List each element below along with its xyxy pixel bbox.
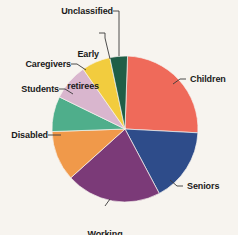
leader-line-unclassified — [113, 11, 119, 56]
pie-label-early-retirees: Early retirees — [20, 28, 99, 112]
pie-slice-children[interactable] — [125, 56, 198, 133]
pie-label-early-retirees-line1: Early — [20, 49, 99, 60]
pie-label-working-poor: Working poor — [70, 208, 140, 235]
pie-label-children: Children — [190, 74, 226, 85]
pie-label-working-poor-line1: Working — [70, 229, 140, 235]
pie-label-seniors: Seniors — [187, 181, 219, 192]
pie-label-disabled: Disabled — [3, 130, 48, 141]
pie-label-students: Students — [5, 84, 59, 95]
pie-label-unclassified: Unclassified — [20, 6, 113, 17]
leader-line-early-retirees — [99, 33, 110, 59]
pie-chart: Unclassified Early retirees Caregivers S… — [0, 0, 238, 235]
pie-label-caregivers: Caregivers — [5, 59, 71, 70]
